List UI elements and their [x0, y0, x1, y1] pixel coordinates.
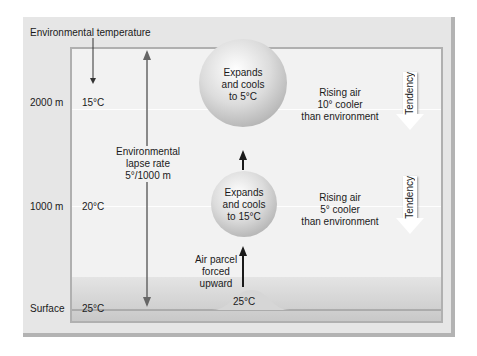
rising-note-1000: Rising air5° coolerthan environment: [297, 192, 383, 228]
altitude-label-1000: 1000 m: [30, 201, 63, 213]
surface-parcel-temp: 25°C: [233, 296, 255, 308]
forced-upward-label: Air parcelforcedupward: [188, 254, 244, 290]
parcel-2000-label: Expandsand coolsto 5°C: [203, 67, 283, 103]
environmental-temperature-label: Environmental temperature: [30, 27, 151, 39]
lapse-rate-label: Environmental lapse rate 5°/1000 m: [108, 146, 188, 182]
rising-note-2000: Rising air10° coolerthan environment: [297, 87, 383, 123]
parcel-1000-label: Expandsand coolsto 15°C: [204, 187, 284, 223]
altitude-label-surface: Surface: [30, 303, 64, 315]
altitude-label-2000: 2000 m: [30, 97, 63, 109]
env-temp-1000: 20°C: [82, 201, 104, 213]
env-temp-2000: 15°C: [82, 97, 104, 109]
env-temp-surface: 25°C: [82, 303, 104, 315]
